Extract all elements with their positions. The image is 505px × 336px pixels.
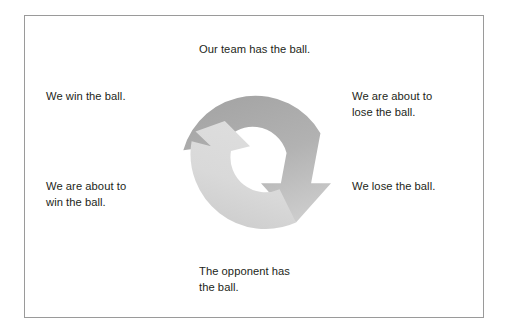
label-we-are-about-to-lose-the-ball: We are about to lose the ball. — [352, 89, 432, 120]
figure-root: Our team has the ball. We win the ball. … — [0, 0, 505, 336]
label-the-opponent-has-the-ball: The opponent has the ball. — [199, 264, 290, 295]
label-we-lose-the-ball: We lose the ball. — [352, 179, 435, 195]
cycle-diagram — [180, 86, 332, 238]
label-we-win-the-ball: We win the ball. — [46, 89, 126, 105]
label-our-team-has-the-ball: Our team has the ball. — [199, 42, 310, 58]
cycle-diagram-svg — [180, 86, 332, 238]
label-we-are-about-to-win-the-ball: We are about to win the ball. — [46, 179, 126, 210]
